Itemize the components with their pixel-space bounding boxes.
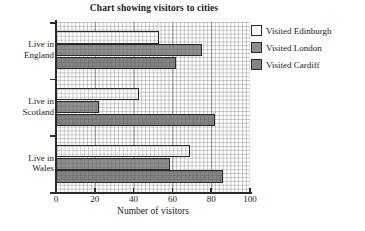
y-axis-tick xyxy=(50,79,55,81)
chart-legend: Visited EdinburghVisited LondonVisited C… xyxy=(251,23,365,74)
y-axis-label-live-in-scotland: Live inScotland xyxy=(0,96,54,117)
x-axis-tick-label-40: 40 xyxy=(119,194,149,204)
bar-live-in-wales-visited-cardiff xyxy=(56,170,223,182)
y-axis-tick xyxy=(50,22,55,24)
y-label-line2: Wales xyxy=(0,163,54,174)
legend-item-visited-cardiff[interactable]: Visited Cardiff xyxy=(251,57,365,72)
x-axis-tick-label-60: 60 xyxy=(157,194,187,204)
bar-live-in-wales-visited-edinburgh xyxy=(56,145,190,157)
y-label-line1: Live in xyxy=(0,39,54,50)
x-axis-tick xyxy=(55,188,57,193)
legend-label: Visited London xyxy=(266,43,322,53)
bar-live-in-wales-visited-london xyxy=(56,158,170,170)
x-axis-tick-label-80: 80 xyxy=(196,194,226,204)
plot-area xyxy=(56,22,250,192)
y-axis-label-live-in-england: Live inEngland xyxy=(0,39,54,60)
x-axis-tick-label-0: 0 xyxy=(41,194,71,204)
x-axis-tick-label-100: 100 xyxy=(235,194,265,204)
legend-swatch-icon xyxy=(251,42,262,53)
bar-live-in-england-visited-london xyxy=(56,44,202,56)
y-axis-tick xyxy=(50,135,55,137)
legend-label: Visited Edinburgh xyxy=(266,26,332,36)
y-axis-line xyxy=(55,20,57,194)
x-axis-tick xyxy=(172,188,174,193)
x-axis-tick-label-20: 20 xyxy=(80,194,110,204)
legend-item-visited-edinburgh[interactable]: Visited Edinburgh xyxy=(251,23,365,38)
bar-live-in-scotland-visited-london xyxy=(56,101,99,113)
legend-swatch-icon xyxy=(251,25,262,36)
x-axis-tick xyxy=(210,188,212,193)
legend-item-visited-london[interactable]: Visited London xyxy=(251,40,365,55)
bar-live-in-scotland-visited-edinburgh xyxy=(56,88,139,100)
y-label-line1: Live in xyxy=(0,96,54,107)
bar-chart: Chart showing visitors to cities Live in… xyxy=(0,0,365,231)
x-axis-tick xyxy=(133,188,135,193)
bar-live-in-england-visited-edinburgh xyxy=(56,31,159,43)
legend-swatch-icon xyxy=(251,59,262,70)
x-axis-tick xyxy=(94,188,96,193)
y-axis-label-live-in-wales: Live inWales xyxy=(0,153,54,174)
legend-label: Visited Cardiff xyxy=(266,60,320,70)
x-axis-tick xyxy=(249,188,251,193)
bar-live-in-scotland-visited-cardiff xyxy=(56,114,215,126)
y-label-line2: Scotland xyxy=(0,107,54,118)
x-axis-title: Number of visitors xyxy=(56,206,250,216)
y-label-line1: Live in xyxy=(0,153,54,164)
chart-title: Chart showing visitors to cities xyxy=(56,3,252,13)
bar-live-in-england-visited-cardiff xyxy=(56,57,176,69)
y-label-line2: England xyxy=(0,50,54,61)
